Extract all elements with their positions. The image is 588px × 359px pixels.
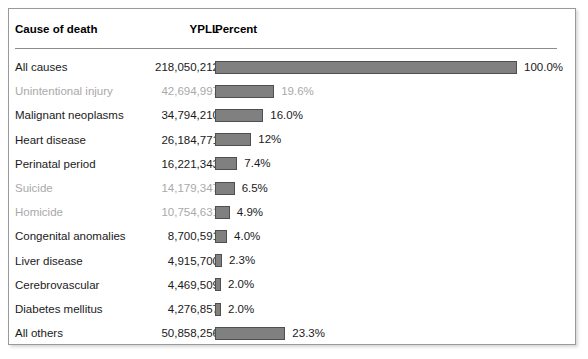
percent-label: 16.0% [270, 109, 303, 122]
percent-bar [215, 133, 251, 146]
percent-label: 2.0% [228, 303, 254, 316]
percent-label: 7.4% [244, 157, 270, 170]
table-row: Diabetes mellitus4,276,8572.0% [9, 297, 577, 321]
cell-ypll: 14,179,347 [129, 182, 219, 195]
percent-bar [215, 206, 230, 219]
bar-wrapper: 2.0% [215, 273, 254, 297]
bar-wrapper: 16.0% [215, 103, 303, 127]
percent-bar [215, 327, 285, 340]
cell-ypll: 34,794,210 [129, 109, 219, 122]
cell-percent: 2.0% [215, 297, 577, 321]
cell-percent: 7.4% [215, 152, 577, 176]
cell-percent: 23.3% [215, 321, 577, 345]
cell-ypll: 8,700,591 [129, 230, 219, 243]
chart-panel: Cause of death YPLL Percent All causes21… [8, 8, 576, 345]
cell-percent: 12% [215, 128, 577, 152]
cell-ypll: 16,221,343 [129, 158, 219, 171]
table-row: Malignant neoplasms34,794,21016.0% [9, 103, 577, 127]
percent-bar [215, 109, 263, 122]
percent-bar [215, 182, 235, 195]
cell-ypll: 4,276,857 [129, 303, 219, 316]
cell-ypll: 26,184,771 [129, 134, 219, 147]
table-row: Cerebrovascular4,469,5092.0% [9, 273, 577, 297]
percent-label: 4.0% [234, 230, 260, 243]
bar-wrapper: 100.0% [215, 55, 563, 79]
table-header-row: Cause of death YPLL Percent [9, 23, 577, 41]
cell-percent: 4.0% [215, 224, 577, 248]
bar-wrapper: 4.9% [215, 200, 263, 224]
cell-percent: 4.9% [215, 200, 577, 224]
bar-wrapper: 6.5% [215, 176, 268, 200]
percent-label: 2.0% [228, 278, 254, 291]
cell-ypll: 42,694,997 [129, 85, 219, 98]
cell-percent: 100.0% [215, 55, 577, 79]
bar-wrapper: 2.3% [215, 249, 255, 273]
percent-label: 2.3% [229, 254, 255, 267]
column-header-ypll: YPLL [129, 23, 219, 35]
percent-label: 23.3% [292, 327, 325, 340]
bar-wrapper: 4.0% [215, 224, 260, 248]
percent-label: 6.5% [242, 182, 268, 195]
table-row: All causes218,050,212100.0% [9, 55, 577, 79]
cell-ypll: 4,915,700 [129, 255, 219, 268]
table-row: Unintentional injury42,694,99719.6% [9, 79, 577, 103]
percent-label: 100.0% [524, 61, 563, 74]
cell-percent: 6.5% [215, 176, 577, 200]
cell-percent: 19.6% [215, 79, 577, 103]
percent-label: 4.9% [237, 206, 263, 219]
table-row: Liver disease4,915,7002.3% [9, 249, 577, 273]
percent-bar [215, 254, 222, 267]
cell-ypll: 218,050,212 [129, 61, 219, 74]
cell-percent: 2.0% [215, 273, 577, 297]
percent-bar [215, 85, 274, 98]
bar-wrapper: 19.6% [215, 79, 314, 103]
bar-wrapper: 7.4% [215, 152, 271, 176]
bar-wrapper: 2.0% [215, 297, 254, 321]
percent-label: 12% [258, 133, 281, 146]
table-row: Perinatal period16,221,3437.4% [9, 152, 577, 176]
percent-bar [215, 230, 227, 243]
table-row: All others50,858,25623.3% [9, 321, 577, 345]
percent-bar [215, 157, 237, 170]
cell-ypll: 4,469,509 [129, 279, 219, 292]
table-row: Congenital anomalies8,700,5914.0% [9, 224, 577, 248]
table-row: Homicide10,754,6314.9% [9, 200, 577, 224]
cell-percent: 2.3% [215, 249, 577, 273]
percent-label: 19.6% [281, 85, 314, 98]
cell-percent: 16.0% [215, 103, 577, 127]
bar-wrapper: 12% [215, 128, 281, 152]
header-separator-rule [15, 48, 557, 49]
table-row: Heart disease26,184,77112% [9, 128, 577, 152]
percent-bar [215, 61, 517, 74]
cell-ypll: 10,754,631 [129, 206, 219, 219]
cell-ypll: 50,858,256 [129, 327, 219, 340]
percent-bar [215, 303, 221, 316]
bar-wrapper: 23.3% [215, 321, 325, 345]
percent-bar [215, 278, 221, 291]
table-row: Suicide14,179,3476.5% [9, 176, 577, 200]
ypll-table: Cause of death YPLL Percent All causes21… [9, 9, 577, 346]
column-header-percent: Percent [215, 23, 257, 35]
